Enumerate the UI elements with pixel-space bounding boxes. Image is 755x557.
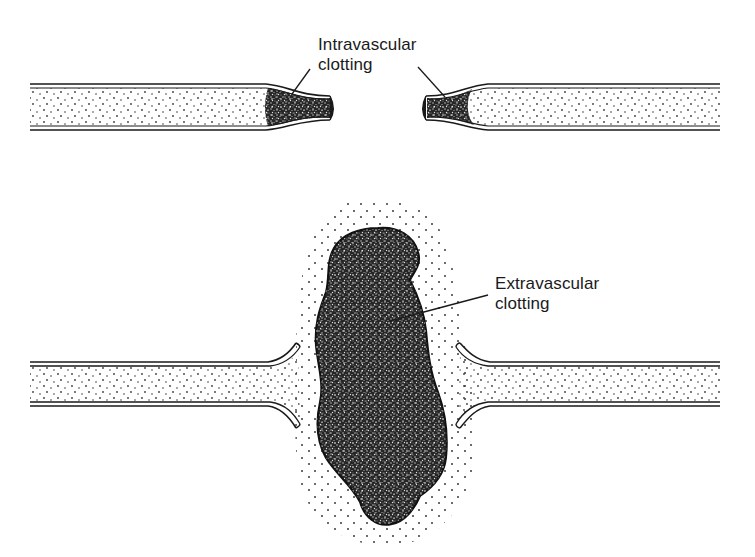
label-line-1: Intravascular: [318, 35, 417, 55]
leader-line-intravascular-left: [292, 69, 310, 94]
top-panel-intravascular: [30, 67, 720, 130]
right-vessel-segment-top: [423, 84, 720, 130]
label-line-1: Extravascular: [495, 274, 599, 294]
label-intravascular-clotting: Intravascular clotting: [318, 35, 417, 75]
bottom-panel-extravascular: [30, 195, 720, 550]
leader-line-intravascular-right: [418, 67, 445, 97]
diagram-canvas: Intravascular clotting Extravascular clo…: [0, 0, 755, 557]
right-vessel-segment-bottom: [456, 343, 720, 428]
left-vessel-segment-top: [30, 84, 333, 130]
label-line-2: clotting: [318, 55, 417, 75]
clotting-illustration: [0, 0, 755, 557]
left-vessel-segment-bottom: [30, 343, 300, 428]
label-extravascular-clotting: Extravascular clotting: [495, 274, 599, 314]
label-line-2: clotting: [495, 294, 599, 314]
